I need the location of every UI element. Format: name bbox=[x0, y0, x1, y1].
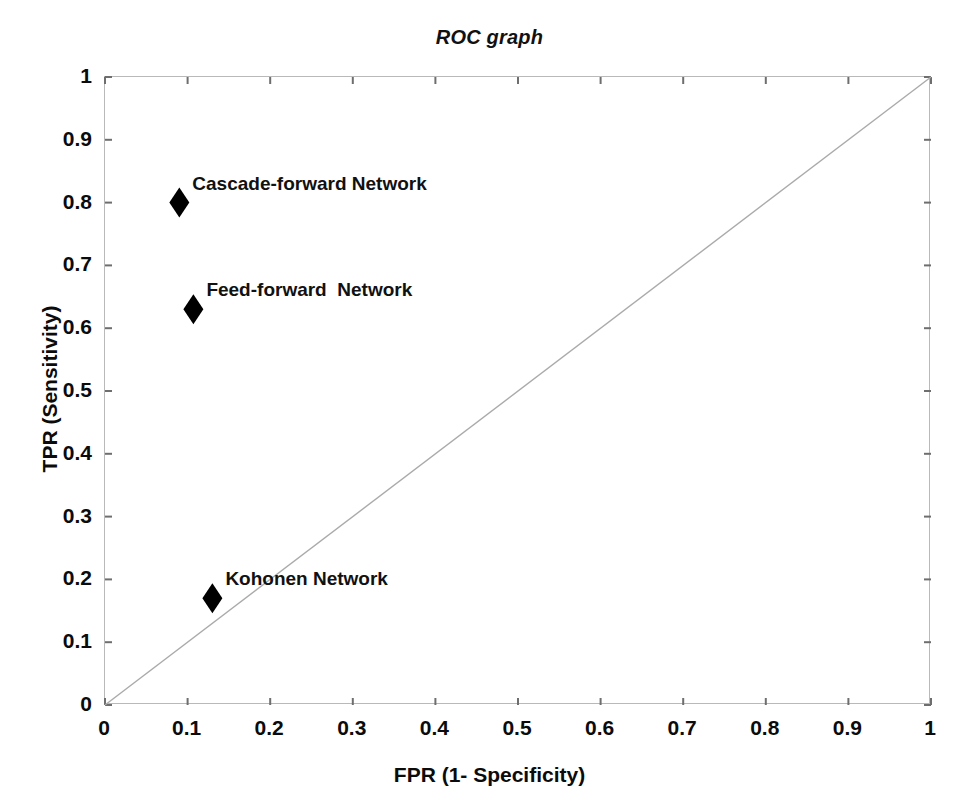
x-tick-label: 0.7 bbox=[668, 716, 697, 740]
x-tick-label: 1 bbox=[924, 716, 936, 740]
y-tick-label: 0 bbox=[32, 692, 92, 716]
y-tick-label: 0.1 bbox=[32, 629, 92, 653]
x-tick-label: 0.5 bbox=[502, 716, 531, 740]
roc-graph-figure: ROC graph 00.10.20.30.40.50.60.70.80.91 … bbox=[0, 0, 979, 812]
y-tick-label: 0.2 bbox=[32, 566, 92, 590]
data-point-marker-0 bbox=[169, 188, 189, 218]
page-title: ROC graph bbox=[0, 26, 979, 49]
x-tick-label: 0 bbox=[98, 716, 110, 740]
chance-diagonal-line bbox=[105, 77, 931, 705]
x-tick-label: 0.6 bbox=[585, 716, 614, 740]
chance-diagonal bbox=[105, 77, 931, 705]
plot-canvas bbox=[105, 77, 931, 705]
plot-area bbox=[104, 76, 930, 704]
point-annotation-label: Kohonen Network bbox=[225, 568, 388, 590]
y-tick-label: 0.9 bbox=[32, 127, 92, 151]
x-tick-label: 0.8 bbox=[750, 716, 779, 740]
point-annotation-label: Cascade-forward Network bbox=[192, 173, 426, 195]
point-annotation-label: Feed-forward Network bbox=[206, 279, 412, 301]
data-markers bbox=[169, 188, 222, 614]
data-point-marker-2 bbox=[202, 583, 222, 613]
y-tick-label: 1 bbox=[32, 64, 92, 88]
x-tick-label: 0.9 bbox=[833, 716, 862, 740]
y-tick-label: 0.8 bbox=[32, 190, 92, 214]
x-tick-label: 0.2 bbox=[255, 716, 284, 740]
x-tick-label: 0.3 bbox=[337, 716, 366, 740]
y-axis-title: TPR (Sensitivity) bbox=[38, 229, 62, 549]
x-tick-label: 0.4 bbox=[420, 716, 449, 740]
data-point-marker-1 bbox=[183, 294, 203, 324]
x-axis-title: FPR (1- Specificity) bbox=[0, 763, 979, 787]
x-tick-label: 0.1 bbox=[172, 716, 201, 740]
